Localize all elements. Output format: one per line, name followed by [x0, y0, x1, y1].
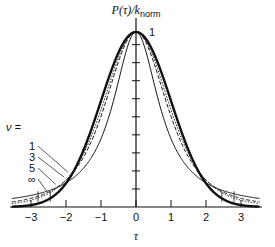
x-tick-label: 1 — [168, 211, 174, 223]
peak-label: 1 — [149, 26, 155, 38]
x-tick-label: 2 — [203, 211, 209, 223]
legend-title: ν = — [6, 121, 22, 133]
x-tick-label: −2 — [60, 211, 73, 223]
x-tick-label: −1 — [95, 211, 108, 223]
x-axis-title: τ — [134, 229, 139, 243]
legend-nu-3: ∞ — [28, 173, 36, 185]
x-tick-label: 0 — [133, 211, 139, 223]
student-t-chart: −3−2−10123 P(τ)/knorm1τν =135∞ — [0, 0, 275, 247]
legend-leader-line — [38, 157, 64, 177]
legend-leader-line — [38, 168, 56, 184]
x-tick-label: 3 — [238, 211, 244, 223]
y-axis-title: P(τ)/knorm — [111, 3, 161, 19]
x-tick-label: −3 — [25, 211, 38, 223]
legend-leader-line — [38, 179, 47, 191]
